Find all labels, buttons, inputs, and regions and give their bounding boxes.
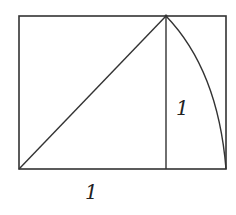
outer-rectangle — [19, 16, 226, 169]
vertex-dot — [165, 15, 168, 18]
diagonal-arc — [166, 16, 226, 169]
root-two-rectangle-diagram: 1 1 — [0, 0, 236, 215]
square-diagonal — [19, 16, 166, 169]
base-label: 1 — [85, 180, 98, 204]
side-label: 1 — [176, 96, 189, 120]
